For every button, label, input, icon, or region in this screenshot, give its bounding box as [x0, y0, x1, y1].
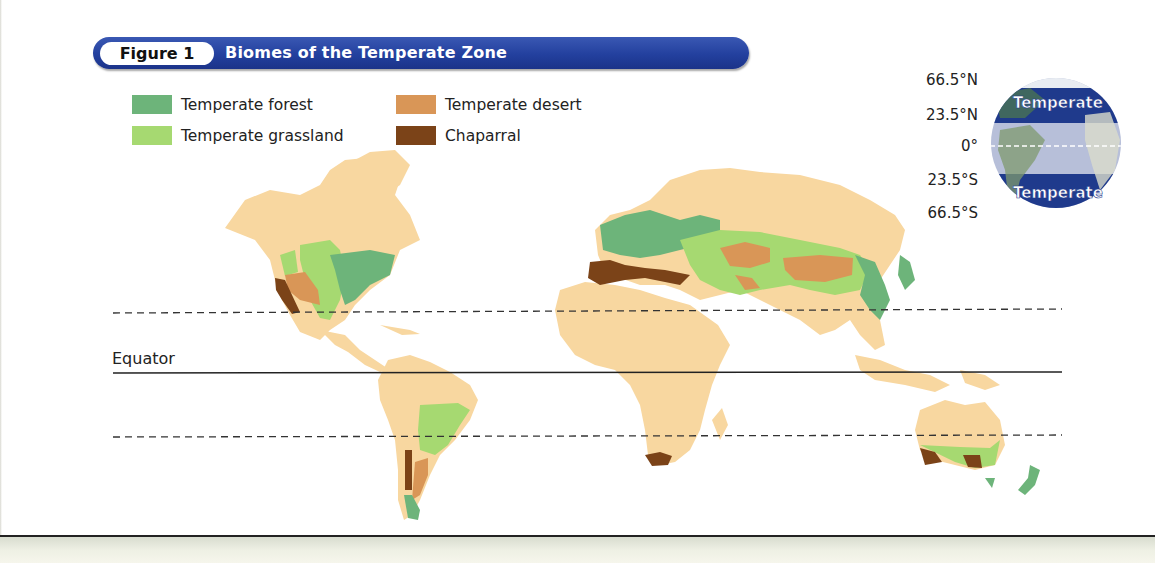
sa-chaparral	[405, 450, 412, 490]
equator-line	[113, 372, 1062, 373]
world-map: Temperate Temperate	[0, 0, 1155, 563]
lat-label-23-5-s: 23.5°S	[898, 171, 978, 189]
lat-label-23-5-n: 23.5°N	[898, 106, 978, 124]
central-america	[320, 330, 390, 372]
new-zealand-forest	[1018, 465, 1040, 495]
japan-forest	[898, 255, 915, 290]
indonesia	[855, 355, 950, 392]
tasmania-forest	[985, 478, 995, 488]
globe-zone-label-south: Temperate	[1013, 184, 1103, 202]
lat-label-66-5-s: 66.5°S	[898, 204, 978, 222]
new-guinea	[960, 370, 1000, 390]
globe-inset: Temperate Temperate	[990, 78, 1122, 210]
page-bottom-band	[0, 537, 1155, 563]
africa	[555, 282, 730, 465]
land-masses	[225, 150, 1005, 520]
lat-label-66-5-n: 66.5°N	[898, 71, 978, 89]
lat-label-0: 0°	[898, 137, 978, 155]
equator-label: Equator	[112, 349, 175, 368]
globe-zone-label-north: Temperate	[1013, 94, 1103, 112]
caribbean	[380, 325, 420, 335]
